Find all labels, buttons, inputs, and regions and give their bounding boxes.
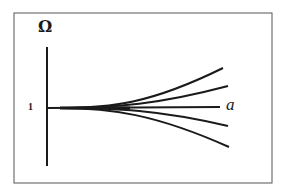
y-axis-label: Ω [38,19,52,35]
y-tick-label: 1 [28,102,33,112]
curve-lower-outer [60,108,229,147]
x-axis-label: a [226,96,235,113]
diagram-canvas: Ω 1 a [0,0,286,194]
curve-upper-inner [60,86,228,108]
curve-upper-outer [60,68,223,108]
